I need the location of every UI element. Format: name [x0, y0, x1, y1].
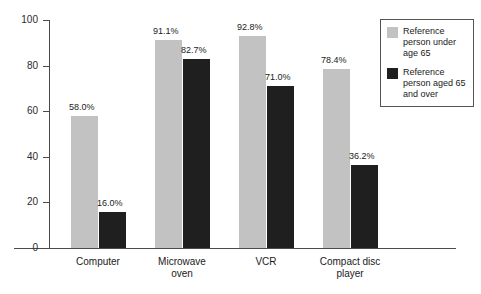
chart-legend: Reference person under age 65Reference p…: [380, 19, 474, 107]
bar[interactable]: 58.0%: [71, 116, 98, 248]
bar-rect: [71, 116, 98, 248]
y-axis-tick-label: 0: [32, 241, 38, 254]
bar[interactable]: 16.0%: [99, 212, 126, 248]
bar-rect: [99, 212, 126, 248]
y-axis-tick: 100: [0, 20, 49, 21]
y-axis-tick: 20: [0, 202, 49, 203]
y-axis-tick: 60: [0, 111, 49, 112]
bar-value-label: 82.7%: [181, 45, 207, 56]
x-axis-line: [14, 248, 456, 249]
bar-value-label: 58.0%: [69, 102, 95, 113]
bar-rect: [323, 69, 350, 248]
bar-group: 92.8%71.0%: [239, 20, 294, 248]
x-axis-category-label: VCR: [221, 256, 311, 268]
y-axis-tick-label: 100: [21, 13, 38, 26]
bar-value-label: 16.0%: [97, 198, 123, 209]
bar-group: 78.4%36.2%: [323, 20, 378, 248]
bar[interactable]: 78.4%: [323, 69, 350, 248]
bar-group: 58.0%16.0%: [71, 20, 126, 248]
bar[interactable]: 71.0%: [267, 86, 294, 248]
y-axis-tick: 40: [0, 157, 49, 158]
legend-item[interactable]: Reference person aged 65 and over: [387, 67, 468, 100]
bar-value-label: 92.8%: [237, 22, 263, 33]
legend-swatch-icon: [387, 27, 398, 38]
bar-value-label: 78.4%: [321, 55, 347, 66]
bar-value-label: 91.1%: [153, 26, 179, 37]
legend-item[interactable]: Reference person under age 65: [387, 26, 468, 59]
bar-rect: [183, 59, 210, 248]
y-axis-tick-mark: [43, 248, 49, 249]
bar[interactable]: 36.2%: [351, 165, 378, 248]
bar-rect: [155, 40, 182, 248]
y-axis-tick: 0: [0, 248, 49, 249]
bar-rect: [351, 165, 378, 248]
y-axis-tick-label: 40: [27, 150, 38, 163]
y-axis-tick: 80: [0, 66, 49, 67]
x-axis-category-label: Computer: [53, 256, 143, 268]
y-axis-tick-label: 60: [27, 104, 38, 117]
bar-rect: [267, 86, 294, 248]
bar-group: 91.1%82.7%: [155, 20, 210, 248]
bar[interactable]: 82.7%: [183, 59, 210, 248]
legend-swatch-icon: [387, 68, 398, 79]
bar-chart-figure: 020406080100 58.0%16.0%91.1%82.7%92.8%71…: [0, 0, 481, 294]
bar-value-label: 36.2%: [349, 151, 375, 162]
plot-area: 58.0%16.0%91.1%82.7%92.8%71.0%78.4%36.2%: [49, 20, 373, 248]
bar[interactable]: 91.1%: [155, 40, 182, 248]
legend-label: Reference person aged 65 and over: [403, 67, 468, 100]
bar[interactable]: 92.8%: [239, 36, 266, 248]
x-axis-category-label: Microwave oven: [137, 256, 227, 280]
y-axis-tick-label: 20: [27, 195, 38, 208]
y-axis-tick-label: 80: [27, 59, 38, 72]
legend-label: Reference person under age 65: [403, 26, 468, 59]
bar-value-label: 71.0%: [265, 72, 291, 83]
x-axis-category-label: Compact disc player: [305, 256, 395, 280]
bar-rect: [239, 36, 266, 248]
